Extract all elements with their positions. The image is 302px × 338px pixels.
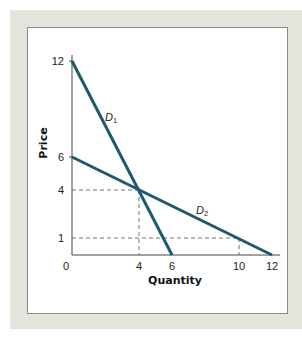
x-tick-10: 10 — [233, 260, 245, 272]
demand-chart: 12 6 4 1 0 4 6 10 12 Quantity Price D1 D… — [0, 0, 302, 338]
x-tick-12: 12 — [266, 260, 278, 272]
x-axis-label: Quantity — [148, 274, 202, 287]
d2-curve — [72, 157, 272, 255]
d2-label: D2 — [196, 204, 208, 218]
d1-label: D1 — [105, 111, 117, 125]
y-tick-4: 4 — [58, 184, 64, 196]
d1-curve — [72, 61, 172, 255]
y-tick-6: 6 — [58, 151, 64, 163]
x-tick-6: 6 — [169, 260, 175, 272]
y-tick-12: 12 — [52, 55, 64, 67]
y-tick-1: 1 — [58, 232, 64, 244]
y-axis-label: Price — [37, 127, 50, 158]
x-tick-4: 4 — [136, 260, 142, 272]
x-tick-0: 0 — [63, 260, 69, 272]
axes — [69, 55, 280, 255]
